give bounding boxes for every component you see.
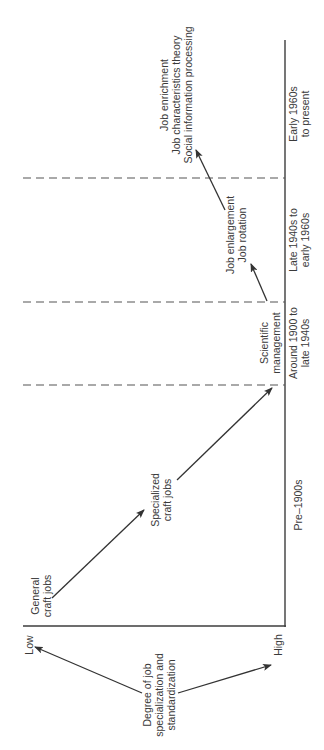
stage-job-enlargement-rotation: Job enlargement Job rotation [224, 196, 248, 274]
axis-title-specialization: Degree of job specialization and standar… [141, 653, 177, 737]
arrow-scientific-to-enlargement [251, 264, 267, 301]
svg-text:Job rotation: Job rotation [236, 207, 248, 262]
svg-text:Scientific: Scientific [258, 322, 270, 364]
svg-text:Job characteristics theory: Job characteristics theory [170, 35, 182, 155]
stage-scientific-management: Scientific management [258, 312, 282, 373]
stage-specialized-craft-jobs: Specialized craft jobs [149, 473, 173, 527]
svg-text:Early 1960s: Early 1960s [287, 86, 299, 141]
arrow-to-high [178, 665, 271, 693]
svg-text:specialization and: specialization and [153, 653, 165, 737]
svg-text:Late 1940s to: Late 1940s to [287, 208, 299, 272]
arrow-general-to-specialized [52, 510, 144, 598]
arrow-enlargement-to-enrichment [196, 150, 225, 210]
svg-text:craft jobs: craft jobs [161, 479, 173, 522]
svg-text:Degree of job: Degree of job [141, 663, 153, 726]
job-design-evolution-diagram: Pre–1900s Around 1900 to late 1940s Late… [0, 0, 324, 750]
svg-text:Around 1900 to: Around 1900 to [287, 307, 299, 379]
arrow-to-low [35, 647, 142, 693]
stage-job-enrichment: Job enrichment Job characteristics theor… [158, 26, 194, 163]
axis-label-high: High [272, 634, 284, 656]
svg-text:late 1940s: late 1940s [299, 319, 311, 367]
svg-text:Pre–1900s: Pre–1900s [292, 480, 304, 531]
svg-text:Social information processing: Social information processing [182, 26, 194, 163]
period-label-pre-1900s: Pre–1900s [292, 480, 304, 531]
svg-text:to present: to present [299, 91, 311, 138]
arrow-specialized-to-scientific [177, 388, 272, 480]
svg-text:Job enrichment: Job enrichment [158, 59, 170, 131]
axis-label-low: Low [23, 635, 35, 655]
svg-text:early 1960s: early 1960s [299, 213, 311, 267]
stage-general-craft-jobs: General craft jobs [29, 575, 53, 618]
period-label-1960s-present: Early 1960s to present [287, 86, 311, 141]
svg-text:Job enlargement: Job enlargement [224, 196, 236, 274]
svg-text:craft jobs: craft jobs [41, 575, 53, 618]
svg-text:standardization: standardization [165, 659, 177, 730]
svg-text:Low: Low [23, 635, 35, 655]
period-label-1940s-1960s: Late 1940s to early 1960s [287, 208, 311, 272]
svg-text:General: General [29, 577, 41, 614]
svg-text:management: management [270, 312, 282, 373]
svg-text:Specialized: Specialized [149, 473, 161, 527]
period-label-1900-1940s: Around 1900 to late 1940s [287, 307, 311, 379]
svg-text:High: High [272, 634, 284, 656]
